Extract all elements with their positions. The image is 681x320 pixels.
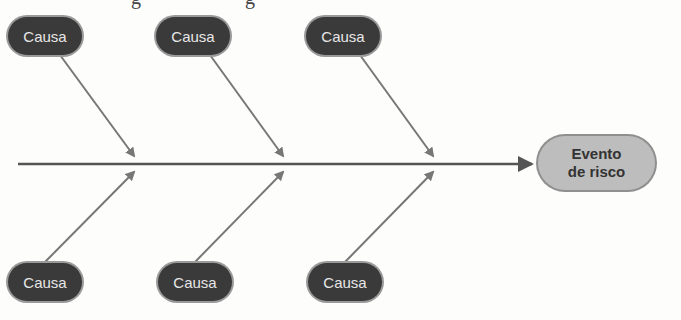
cause-node-bottom-2: Causa [158, 263, 232, 301]
cause-label: Causa [23, 274, 66, 291]
risk-event-node: Evento de risco [538, 136, 655, 190]
event-label-line2: de risco [568, 163, 626, 181]
event-label-line1: Evento [571, 145, 621, 163]
cause-label: Causa [321, 28, 364, 45]
cause-label: Causa [171, 28, 214, 45]
cause-node-bottom-3: Causa [308, 263, 382, 301]
cause-label: Causa [23, 28, 66, 45]
cause-node-top-1: Causa [8, 17, 82, 55]
cause-label: Causa [323, 274, 366, 291]
cause-node-top-3: Causa [306, 17, 380, 55]
cause-node-top-2: Causa [156, 17, 230, 55]
cause-label: Causa [173, 274, 216, 291]
cause-node-bottom-1: Causa [8, 263, 82, 301]
